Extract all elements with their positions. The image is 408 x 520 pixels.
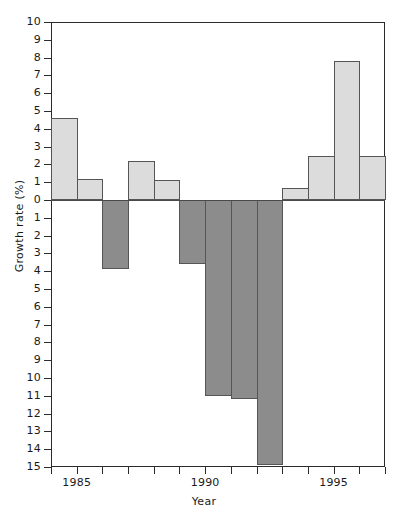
x-tick-1996 — [359, 467, 360, 474]
y-axis-title: Growth rate (%) — [14, 146, 26, 306]
x-tick-1988 — [154, 467, 155, 474]
y-tick-15 — [44, 467, 51, 468]
y-tick-3 — [44, 147, 51, 148]
y-tick-label: 11 — [1, 390, 41, 401]
y-tick-4 — [44, 271, 51, 272]
y-tick-label: 7 — [1, 319, 41, 330]
y-tick-2 — [44, 236, 51, 237]
x-tick-1993 — [282, 467, 283, 474]
y-tick-label: 13 — [1, 425, 41, 436]
y-tick-8 — [44, 342, 51, 343]
y-axis: 109876543210123456789101112131415 — [0, 0, 408, 520]
x-tick-label: 1990 — [175, 477, 235, 489]
y-tick-10 — [44, 378, 51, 379]
y-tick-label: 10 — [1, 16, 41, 27]
y-tick-10 — [44, 22, 51, 23]
y-tick-0 — [44, 200, 51, 201]
y-tick-9 — [44, 40, 51, 41]
y-tick-label: 4 — [1, 123, 41, 134]
y-tick-5 — [44, 289, 51, 290]
y-tick-label: 6 — [1, 87, 41, 98]
y-tick-8 — [44, 58, 51, 59]
y-tick-7 — [44, 75, 51, 76]
y-tick-14 — [44, 449, 51, 450]
y-tick-4 — [44, 129, 51, 130]
x-axis-title: Year — [0, 496, 408, 508]
x-tick-1985 — [77, 467, 78, 474]
y-tick-2 — [44, 164, 51, 165]
y-tick-13 — [44, 431, 51, 432]
x-tick-label: 1985 — [47, 477, 107, 489]
y-tick-label: 9 — [1, 34, 41, 45]
y-tick-label: 10 — [1, 372, 41, 383]
y-tick-label: 7 — [1, 69, 41, 80]
x-tick-1986 — [102, 467, 103, 474]
y-tick-label: 12 — [1, 408, 41, 419]
y-tick-5 — [44, 111, 51, 112]
x-tick-label: 1995 — [304, 477, 364, 489]
y-tick-11 — [44, 396, 51, 397]
y-tick-1 — [44, 182, 51, 183]
y-tick-label: 9 — [1, 354, 41, 365]
y-tick-label: 5 — [1, 105, 41, 116]
y-tick-6 — [44, 307, 51, 308]
x-tick-1984 — [51, 467, 52, 474]
y-tick-6 — [44, 93, 51, 94]
x-tick-1987 — [128, 467, 129, 474]
x-tick-1992 — [257, 467, 258, 474]
y-tick-label: 15 — [1, 461, 41, 472]
x-tick-1989 — [179, 467, 180, 474]
y-tick-label: 8 — [1, 52, 41, 63]
y-tick-1 — [44, 218, 51, 219]
y-tick-3 — [44, 253, 51, 254]
x-tick-1995 — [334, 467, 335, 474]
x-tick-1994 — [308, 467, 309, 474]
y-tick-9 — [44, 360, 51, 361]
growth-rate-bar-chart: 109876543210123456789101112131415 198519… — [0, 0, 408, 520]
y-tick-12 — [44, 414, 51, 415]
y-tick-label: 8 — [1, 336, 41, 347]
y-tick-label: 14 — [1, 443, 41, 454]
x-tick-1990 — [205, 467, 206, 474]
x-tick-1991 — [231, 467, 232, 474]
x-tick-1997 — [385, 467, 386, 474]
y-tick-7 — [44, 325, 51, 326]
